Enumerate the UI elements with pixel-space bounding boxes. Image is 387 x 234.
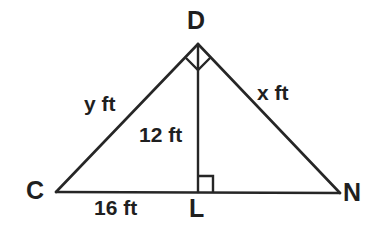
side-label-x: x ft [257,82,289,103]
right-angle-marker-l-icon [198,176,213,192]
base-label: 16 ft [94,197,137,218]
vertex-label-l: L [189,196,204,221]
vertex-label-d: D [187,8,205,33]
vertex-label-n: N [343,180,361,205]
altitude-label: 12 ft [139,124,182,145]
geometry-diagram: D C N L y ft x ft 12 ft 16 ft [0,0,387,234]
segment-cd [56,44,198,192]
segment-dn [198,44,340,193]
vertex-label-c: C [26,178,44,203]
side-label-y: y ft [84,93,116,114]
